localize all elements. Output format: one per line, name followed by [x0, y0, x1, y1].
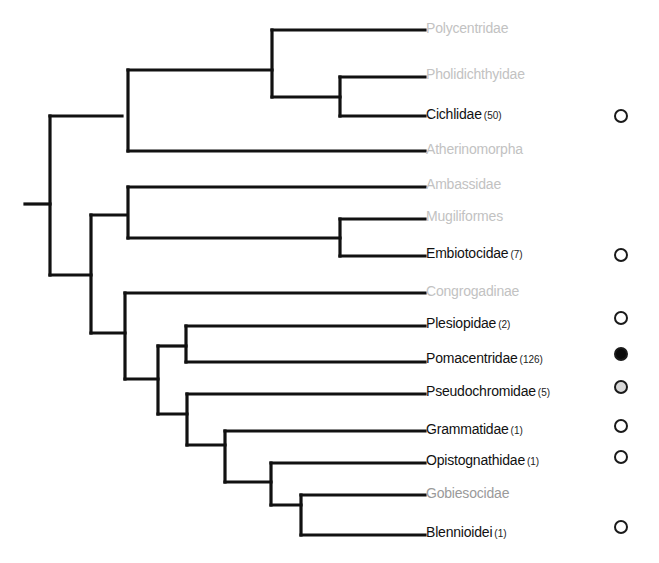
taxon-name: Atherinomorpha — [426, 141, 523, 157]
open-circle-marker-blennioidei — [614, 520, 628, 534]
taxon-gobiesocidae: Gobiesocidae — [426, 485, 509, 501]
taxon-name: Gobiesocidae — [426, 485, 509, 501]
taxon-name: Blennioidei — [426, 524, 492, 540]
taxon-atherinomorpha: Atherinomorpha — [426, 141, 523, 157]
taxon-congrogadinae: Congrogadinae — [426, 283, 519, 299]
taxon-name: Opistognathidae — [426, 452, 525, 468]
species-count: (1) — [527, 456, 539, 467]
taxon-pholidichthyidae: Pholidichthyidae — [426, 66, 525, 82]
species-count: (126) — [520, 354, 543, 365]
taxon-ambassidae: Ambassidae — [426, 176, 501, 192]
open-circle-marker-embiotocidae — [614, 248, 628, 262]
taxon-name: Polycentridae — [426, 20, 508, 36]
taxon-name: Ambassidae — [426, 176, 501, 192]
taxon-cichlidae: Cichlidae(50) — [426, 106, 502, 124]
taxon-embiotocidae: Embiotocidae(7) — [426, 245, 523, 263]
taxon-name: Congrogadinae — [426, 283, 519, 299]
taxon-opistognathidae: Opistognathidae(1) — [426, 452, 539, 470]
species-count: (50) — [484, 110, 502, 121]
open-circle-marker-grammatidae — [614, 419, 628, 433]
taxon-polycentridae: Polycentridae — [426, 20, 508, 36]
gray-circle-marker-pseudochromidae — [614, 380, 628, 394]
taxon-plesiopidae: Plesiopidae(2) — [426, 315, 510, 333]
taxon-name: Pholidichthyidae — [426, 66, 525, 82]
taxon-grammatidae: Grammatidae(1) — [426, 421, 523, 439]
taxon-name: Cichlidae — [426, 106, 482, 122]
taxon-name: Pseudochromidae — [426, 383, 536, 399]
species-count: (7) — [510, 249, 522, 260]
phylogenetic-tree-branches — [0, 0, 659, 563]
species-count: (2) — [498, 319, 510, 330]
open-circle-marker-plesiopidae — [614, 311, 628, 325]
species-count: (5) — [538, 387, 550, 398]
taxon-blennioidei: Blennioidei(1) — [426, 524, 507, 542]
taxon-mugiliformes: Mugiliformes — [426, 208, 503, 224]
taxon-pseudochromidae: Pseudochromidae(5) — [426, 383, 550, 401]
taxon-name: Grammatidae — [426, 421, 509, 437]
taxon-name: Pomacentridae — [426, 350, 518, 366]
open-circle-marker-cichlidae — [614, 109, 628, 123]
taxon-name: Embiotocidae — [426, 245, 508, 261]
open-circle-marker-opistognathidae — [614, 450, 628, 464]
taxon-pomacentridae: Pomacentridae(126) — [426, 350, 543, 368]
taxon-name: Mugiliformes — [426, 208, 503, 224]
taxon-name: Plesiopidae — [426, 315, 496, 331]
species-count: (1) — [511, 425, 523, 436]
filled-circle-marker-pomacentridae — [614, 347, 628, 361]
species-count: (1) — [494, 528, 506, 539]
